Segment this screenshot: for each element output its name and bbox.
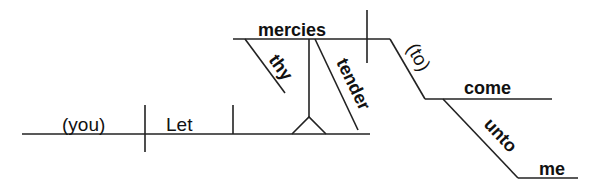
word-unto: unto <box>480 114 521 156</box>
word-tender: tender <box>332 55 374 113</box>
pedestal-base <box>292 117 326 134</box>
word-verb: Let <box>166 114 193 135</box>
word-thy: thy <box>265 51 297 85</box>
sentence-diagram: (you) Let mercies thy tender (to) come u… <box>0 0 596 192</box>
word-come: come <box>464 78 511 98</box>
word-me: me <box>539 159 565 179</box>
word-mercies: mercies <box>258 20 326 40</box>
word-subject: (you) <box>62 114 105 135</box>
diagram-lines: (you) Let mercies thy tender (to) come u… <box>0 0 596 192</box>
